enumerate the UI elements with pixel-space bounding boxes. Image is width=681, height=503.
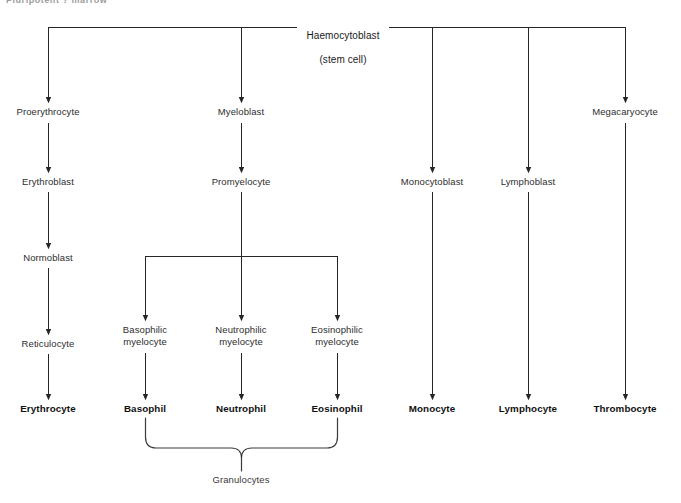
node-eosinophil: Eosinophil (311, 403, 362, 415)
node-erythrocyte: Erythrocyte (20, 403, 76, 415)
node-promyelocyte: Promyelocyte (212, 176, 271, 188)
node-lymphocyte: Lymphocyte (499, 403, 557, 415)
haematopoiesis-diagram: Pluripotent ? marrow (0, 0, 681, 503)
node-normoblast: Normoblast (23, 252, 73, 264)
node-monocyte: Monocyte (409, 403, 456, 415)
node-proerythrocyte: Proerythrocyte (16, 106, 79, 118)
node-eosinophilic-myelocyte: Eosinophilic myelocyte (311, 324, 363, 347)
node-haemocytoblast: Haemocytoblast (stem cell) (306, 18, 379, 78)
node-thrombocyte: Thrombocyte (593, 403, 656, 415)
node-granulocytes-group-label: Granulocytes (212, 474, 269, 486)
node-basophilic-myelocyte: Basophilic myelocyte (123, 324, 167, 347)
node-myeloblast: Myeloblast (218, 106, 264, 118)
node-megacaryocyte: Megacaryocyte (592, 106, 658, 118)
granulocytes-brace (146, 418, 338, 458)
clipped-header-strip: Pluripotent ? marrow (0, 0, 681, 12)
node-erythroblast: Erythroblast (22, 176, 74, 188)
clipped-header-text: Pluripotent ? marrow (6, 0, 107, 5)
haemocytoblast-line1: Haemocytoblast (306, 30, 379, 42)
node-lymphoblast: Lymphoblast (501, 176, 556, 188)
node-basophil: Basophil (124, 403, 166, 415)
node-neutrophilic-myelocyte: Neutrophilic myelocyte (215, 324, 266, 347)
node-reticulocyte: Reticulocyte (22, 338, 75, 350)
node-monocytoblast: Monocytoblast (401, 176, 464, 188)
node-neutrophil: Neutrophil (216, 403, 266, 415)
haemocytoblast-line2: (stem cell) (306, 54, 379, 66)
